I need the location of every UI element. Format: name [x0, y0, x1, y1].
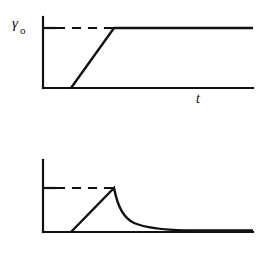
- strain-curve: [71, 28, 253, 88]
- stress-curve: [71, 188, 253, 232]
- strain-y-symbol: γ: [12, 15, 18, 31]
- stress-plot-canvas: [0, 134, 261, 268]
- strain-vs-time-plot: γo t: [0, 0, 261, 134]
- figure-root: γo t τo t: [0, 0, 261, 268]
- strain-y-axis-label: γo: [12, 16, 23, 31]
- stress-vs-time-plot: τo t: [0, 134, 261, 268]
- strain-plot-canvas: [0, 0, 261, 134]
- strain-x-axis-label: t: [196, 92, 200, 106]
- strain-y-subscript: o: [20, 25, 26, 36]
